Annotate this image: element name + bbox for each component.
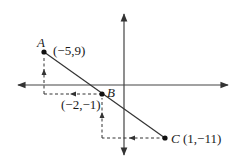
point-c-coords: (1,−11) (183, 131, 221, 146)
point-c-name: C (171, 131, 180, 146)
arrowhead-up-icon (100, 112, 105, 118)
point-a-coords: (−5,9) (53, 43, 85, 58)
point-a-name: A (36, 35, 45, 50)
step-arrow-b-to-a (42, 56, 103, 97)
step-arrow-c-to-b (100, 98, 166, 141)
arrowhead-left-icon (70, 92, 76, 97)
coordinate-plane-diagram: A (−5,9) B (−2,−1) C (1,−11) (0, 0, 238, 166)
point-b-coords: (−2,−1) (61, 97, 101, 112)
point-b (99, 91, 104, 96)
line-segment-ac (44, 52, 165, 138)
point-b-name: B (107, 85, 115, 100)
point-a (41, 49, 46, 54)
arrowhead-up-icon (42, 69, 47, 75)
point-c (162, 135, 167, 140)
arrowhead-left-icon (129, 136, 135, 141)
